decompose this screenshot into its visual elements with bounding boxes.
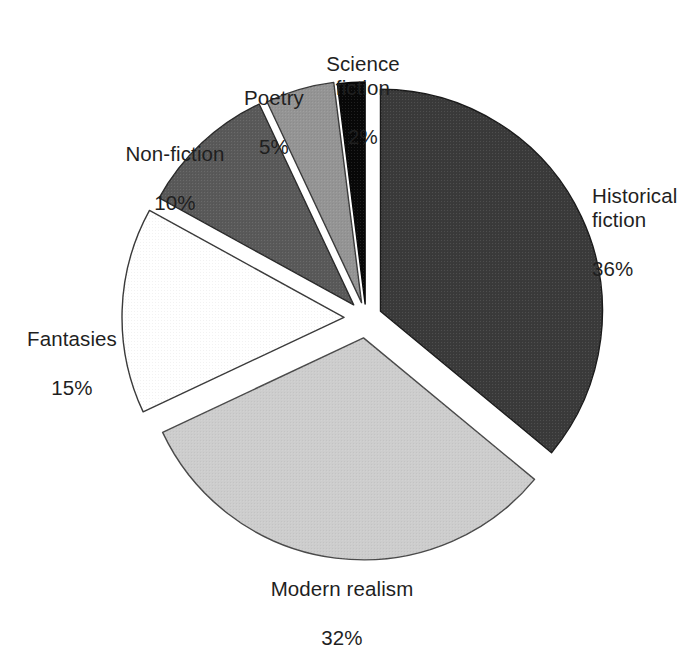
- slice-label-value: 36%: [592, 257, 683, 281]
- slice-label-historical-fiction: Historical fiction 36%: [592, 160, 683, 305]
- slice-label-value: 15%: [2, 376, 142, 400]
- slice-label-value: 32%: [237, 626, 447, 649]
- slice-label-modern-realism: Modern realism 32%: [237, 553, 447, 649]
- slice-label-name: Modern realism: [237, 577, 447, 601]
- slice-label-name: Historical fiction: [592, 184, 683, 232]
- slice-label-value: 10%: [100, 191, 250, 215]
- slice-label-fantasies: Fantasies 15%: [2, 303, 142, 424]
- slice-label-name: Fantasies: [2, 327, 142, 351]
- slice-label-name: Science fiction: [308, 52, 418, 100]
- slice-label-value: 2%: [308, 125, 418, 149]
- slice-label-science-fiction: Science fiction 2%: [308, 28, 418, 173]
